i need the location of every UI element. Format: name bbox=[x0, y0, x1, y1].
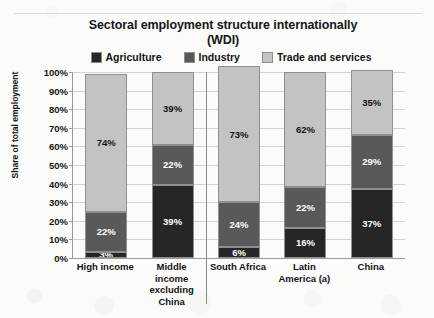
y-tick-label: 20% bbox=[49, 215, 68, 226]
bar-segment-agriculture[interactable]: 3% bbox=[85, 252, 127, 258]
x-tick-label-line: excluding bbox=[138, 284, 204, 296]
y-tick-mark bbox=[69, 258, 73, 259]
chart-legend: AgricultureIndustryTrade and services bbox=[58, 50, 404, 64]
x-tick-label-line: America (a) bbox=[271, 273, 337, 285]
bar-value-label: 39% bbox=[163, 104, 182, 114]
bar-value-label: 22% bbox=[296, 203, 315, 213]
x-tick-label: High income bbox=[72, 261, 138, 273]
y-axis-title: Share of total employment bbox=[10, 50, 20, 200]
x-tick-label: China bbox=[338, 261, 404, 273]
y-tick-label: 40% bbox=[49, 178, 68, 189]
bar-value-label: 29% bbox=[362, 157, 381, 167]
stacked-bar-chart: Sectoral employment structure internatio… bbox=[0, 0, 434, 318]
x-tick-label-line: Latin bbox=[271, 261, 337, 273]
x-tick-label: South Africa bbox=[205, 261, 271, 273]
bar-value-label: 39% bbox=[163, 217, 182, 227]
x-tick-label: MiddleincomeexcludingChina bbox=[138, 261, 204, 307]
x-tick-label-line: income bbox=[138, 273, 204, 285]
bar-value-label: 16% bbox=[296, 238, 315, 248]
y-tick-label: 100% bbox=[44, 67, 68, 78]
bar-value-label: 6% bbox=[232, 248, 246, 258]
bar-value-label: 22% bbox=[97, 227, 116, 237]
x-axis-tick-labels: High incomeMiddleincomeexcludingChinaSou… bbox=[72, 261, 404, 313]
legend-label: Industry bbox=[199, 51, 240, 63]
bar-segment-agriculture[interactable]: 39% bbox=[152, 185, 194, 258]
bar-segment-agriculture[interactable]: 6% bbox=[218, 247, 260, 258]
bar-segment-industry[interactable]: 22% bbox=[284, 187, 326, 228]
bar-segment-trade-and-services[interactable]: 73% bbox=[218, 66, 260, 202]
y-tick-label: 80% bbox=[49, 104, 68, 115]
bar-value-label: 22% bbox=[163, 160, 182, 170]
x-tick-label-line: High income bbox=[72, 261, 138, 273]
legend-label: Agriculture bbox=[106, 51, 162, 63]
bar-value-label: 3% bbox=[99, 252, 113, 258]
bar-segment-industry[interactable]: 22% bbox=[152, 145, 194, 186]
bar-stack-latin-america-a[interactable]: 16%22%62% bbox=[284, 72, 326, 258]
legend-swatch-icon bbox=[91, 52, 102, 63]
bar-segment-trade-and-services[interactable]: 62% bbox=[284, 72, 326, 187]
y-tick-label: 90% bbox=[49, 85, 68, 96]
bar-segment-agriculture[interactable]: 37% bbox=[351, 189, 393, 258]
bar-segment-trade-and-services[interactable]: 74% bbox=[85, 74, 127, 212]
bar-segment-agriculture[interactable]: 16% bbox=[284, 228, 326, 258]
y-axis-tick-labels: 0%10%20%30%40%50%60%70%80%90%100% bbox=[28, 72, 68, 258]
legend-item-industry: Industry bbox=[184, 51, 240, 63]
bar-value-label: 37% bbox=[362, 219, 381, 229]
bar-stack-high-income[interactable]: 3%22%74% bbox=[85, 72, 127, 258]
bar-segment-industry[interactable]: 22% bbox=[85, 212, 127, 253]
legend-item-agriculture: Agriculture bbox=[91, 51, 162, 63]
legend-label: Trade and services bbox=[277, 51, 372, 63]
chart-title: Sectoral employment structure internatio… bbox=[40, 18, 406, 47]
y-tick-label: 10% bbox=[49, 234, 68, 245]
bar-value-label: 62% bbox=[296, 125, 315, 135]
y-tick-label: 50% bbox=[49, 160, 68, 171]
x-tick-label-line: Middle bbox=[138, 261, 204, 273]
bar-stack-middle-income-excluding-china[interactable]: 39%22%39% bbox=[152, 72, 194, 258]
plot-area: 3%22%74%39%22%39%6%24%73%16%22%62%37%29%… bbox=[72, 72, 405, 259]
bar-series-container: 3%22%74%39%22%39%6%24%73%16%22%62%37%29%… bbox=[73, 72, 405, 258]
bar-stack-south-africa[interactable]: 6%24%73% bbox=[218, 72, 260, 258]
y-tick-label: 70% bbox=[49, 122, 68, 133]
chart-title-line-2: (WDI) bbox=[40, 33, 406, 48]
bar-segment-trade-and-services[interactable]: 39% bbox=[152, 72, 194, 145]
x-tick-label: LatinAmerica (a) bbox=[271, 261, 337, 284]
y-tick-label: 30% bbox=[49, 197, 68, 208]
legend-swatch-icon bbox=[262, 52, 273, 63]
bar-value-label: 73% bbox=[229, 130, 248, 140]
legend-item-trade-and-services: Trade and services bbox=[262, 51, 372, 63]
bar-stack-china[interactable]: 37%29%35% bbox=[351, 72, 393, 258]
bar-segment-trade-and-services[interactable]: 35% bbox=[351, 70, 393, 135]
bar-segment-industry[interactable]: 24% bbox=[218, 202, 260, 247]
bar-value-label: 74% bbox=[97, 138, 116, 148]
x-tick-label-line: China bbox=[138, 296, 204, 308]
x-tick-label-line: South Africa bbox=[205, 261, 271, 273]
legend-swatch-icon bbox=[184, 52, 195, 63]
x-tick-label-line: China bbox=[338, 261, 404, 273]
y-tick-label: 0% bbox=[54, 253, 68, 264]
y-tick-label: 60% bbox=[49, 141, 68, 152]
chart-title-line-1: Sectoral employment structure internatio… bbox=[40, 18, 406, 33]
bar-value-label: 35% bbox=[362, 98, 381, 108]
bar-segment-industry[interactable]: 29% bbox=[351, 135, 393, 189]
bar-value-label: 24% bbox=[229, 220, 248, 230]
